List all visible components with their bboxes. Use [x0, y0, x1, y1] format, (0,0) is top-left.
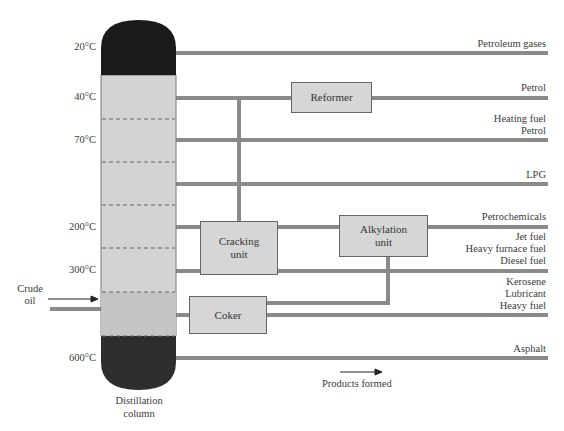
- cracking-unit: Cracking unit: [200, 221, 278, 275]
- alkylation-unit: Alkylation unit: [339, 215, 428, 257]
- product-heating-fuel: Heating fuel: [494, 113, 546, 125]
- products-formed-label: Products formed: [322, 378, 392, 390]
- product-asphalt: Asphalt: [513, 343, 546, 355]
- alkylation-label-line2: unit: [375, 236, 392, 249]
- coker-label: Coker: [215, 309, 242, 322]
- product-kerosene: Kerosene: [506, 276, 546, 288]
- temp-40c: 40°C: [50, 91, 96, 103]
- temp-300c: 300°C: [50, 264, 96, 276]
- product-petrol: Petrol: [521, 82, 546, 94]
- cracking-label-line1: Cracking: [219, 235, 259, 248]
- alkylation-label-line1: Alkylation: [360, 223, 407, 236]
- column-label-line1: Distillation: [98, 394, 180, 407]
- distillation-column: [101, 20, 176, 390]
- product-petrochemicals: Petrochemicals: [482, 211, 546, 223]
- product-diesel-fuel: Diesel fuel: [500, 255, 546, 267]
- product-petroleum-gases: Petroleum gases: [477, 38, 546, 50]
- temp-20c: 20°C: [50, 41, 96, 53]
- temp-200c: 200°C: [50, 221, 96, 233]
- product-petrol-2: Petrol: [521, 125, 546, 137]
- temp-600c: 600°C: [50, 352, 96, 364]
- crude-oil-label: Crude oil: [10, 283, 50, 307]
- reformer-label: Reformer: [310, 91, 352, 104]
- distillation-column-label: Distillation column: [98, 394, 180, 420]
- reformer-unit: Reformer: [291, 82, 372, 113]
- column-label-line2: column: [98, 407, 180, 420]
- temp-70c: 70°C: [50, 134, 96, 146]
- coker-unit: Coker: [189, 296, 267, 334]
- product-lubricant: Lubricant: [505, 288, 546, 300]
- product-heavy-fuel: Heavy fuel: [500, 300, 546, 312]
- product-heavy-furnace-fuel: Heavy furnace fuel: [466, 243, 546, 255]
- cracking-label-line2: unit: [230, 248, 247, 261]
- refinery-diagram: 20°C 40°C 70°C 200°C 300°C 600°C Crude o…: [0, 0, 564, 431]
- crude-oil-label-line2: oil: [10, 295, 50, 307]
- product-lpg: LPG: [526, 169, 546, 181]
- product-jet-fuel: Jet fuel: [515, 231, 546, 243]
- diagram-graphics: [0, 0, 564, 431]
- crude-oil-label-line1: Crude: [10, 283, 50, 295]
